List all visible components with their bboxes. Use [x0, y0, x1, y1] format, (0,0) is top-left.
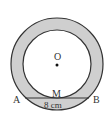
annulus-diagram: O M A B 8 cm — [0, 0, 111, 123]
center-label: O — [54, 51, 61, 62]
chord-length-label: 8 cm — [44, 100, 62, 110]
midpoint-label: M — [52, 88, 61, 99]
center-point — [56, 64, 59, 67]
point-b-label: B — [93, 94, 100, 105]
point-a-label: A — [13, 94, 21, 105]
